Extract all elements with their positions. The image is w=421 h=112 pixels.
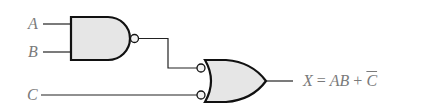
logic-diagram: A B C X = AB + C bbox=[0, 0, 421, 112]
or-input-bubble-bottom bbox=[197, 91, 205, 99]
wire-nand-to-or bbox=[139, 39, 198, 69]
or-gate bbox=[205, 60, 266, 102]
input-label-a: A bbox=[28, 16, 38, 32]
equals-sign: = bbox=[317, 72, 326, 89]
plus-sign: + bbox=[353, 72, 362, 89]
nand-gate bbox=[71, 17, 130, 60]
circuit-svg bbox=[0, 0, 421, 112]
nand-output-bubble bbox=[131, 35, 139, 43]
input-label-c: C bbox=[27, 87, 38, 103]
input-label-b: B bbox=[28, 44, 38, 60]
output-var: X bbox=[303, 72, 313, 89]
output-expression: X = AB + C bbox=[303, 73, 377, 89]
term-ab: AB bbox=[330, 72, 350, 89]
or-input-bubble-top bbox=[197, 64, 205, 72]
term-c-bar: C bbox=[366, 72, 377, 89]
